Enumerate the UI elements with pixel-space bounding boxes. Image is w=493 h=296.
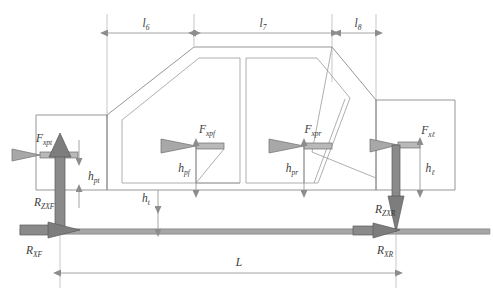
- Fxpf-arrow-shaft: [196, 143, 224, 149]
- Fxl-arrow-shaft: [398, 142, 420, 148]
- cabin-window-outlines: [122, 47, 376, 183]
- dim-label-l8: l8: [355, 17, 362, 32]
- height-label-ht: ht: [142, 192, 151, 207]
- extension-lines: [60, 14, 396, 288]
- force-label-Fxpt: Fxpt: [35, 132, 53, 147]
- top-dimension-chain: l6 l7 l8: [108, 17, 375, 33]
- height-label-hl: hℓ: [426, 162, 436, 177]
- reaction-group-RZXF: RZXF: [33, 133, 71, 230]
- height-group-hl: hℓ: [420, 145, 435, 190]
- RXF-arrow-shaft: [20, 225, 52, 235]
- reaction-label-RXF: RXF: [25, 244, 43, 259]
- height-label-hpr: hpr: [286, 162, 299, 177]
- height-label-hpt: hpt: [88, 170, 101, 185]
- rear-pillar-line: [314, 99, 345, 183]
- bottom-dimension-L: L: [61, 256, 395, 273]
- axle-ground-bar: [20, 229, 490, 234]
- dim-label-l6: l6: [143, 17, 150, 32]
- vehicle-main-body: [107, 47, 376, 190]
- height-label-hpf: hpf: [178, 162, 191, 177]
- height-group-ht: ht: [142, 190, 158, 229]
- vehicle-free-body-diagram-canvas: l6 l7 l8 Fxpt: [0, 0, 493, 296]
- reaction-group-RZXR: RZXR: [374, 145, 404, 232]
- Fxpr-arrow-head: [269, 139, 304, 153]
- RZXF-arrow-shaft: [55, 152, 65, 230]
- force-label-Fxpf: Fxpf: [198, 123, 216, 138]
- reaction-label-RZXF: RZXF: [33, 196, 55, 211]
- Fxpr-arrow-shaft: [304, 143, 332, 149]
- force-label-Fxl: Fxℓ: [420, 124, 435, 139]
- reaction-label-RXR: RXR: [376, 244, 394, 259]
- front-seat-detail: [196, 149, 240, 183]
- free-body-diagram-figure: l6 l7 l8 Fxpt: [0, 0, 493, 296]
- dim-label-L: L: [235, 256, 242, 268]
- ground-axle-assembly: [20, 229, 490, 234]
- force-label-Fxpr: Fxpr: [303, 123, 321, 138]
- reaction-group-RXF: RXF: [20, 222, 80, 259]
- RZXF-arrow-head: [49, 133, 71, 157]
- rear-window-pane: [246, 58, 350, 183]
- force-group-Fxpr: Fxpr: [269, 123, 332, 153]
- reaction-group-RXR: RXR: [353, 223, 400, 259]
- force-group-Fxpf: Fxpf: [161, 123, 240, 183]
- Fxpf-arrow-head: [161, 139, 196, 153]
- height-group-hpt: hpt: [79, 140, 101, 208]
- force-group-Fxl: Fxℓ: [370, 124, 436, 152]
- dim-label-l7: l7: [260, 17, 267, 32]
